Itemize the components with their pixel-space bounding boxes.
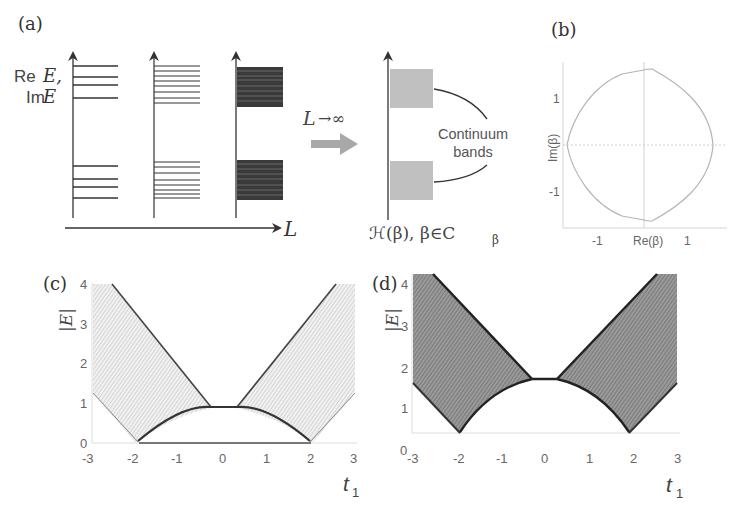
- panel-c: (c) |E| 0 1 2 3 4 -3 -2 -1 0 1 2 3: [43, 273, 359, 500]
- d-ytick-4: 4: [401, 277, 408, 292]
- panel-a: (a) Re E, Im E: [14, 13, 508, 247]
- d-left-band: [413, 274, 532, 434]
- d-ytick-1: 1: [401, 401, 408, 416]
- y-axis-label-im-e: E: [42, 86, 56, 107]
- continuum-bands-label-2: bands: [453, 144, 493, 160]
- b-ytick-neg1: -1: [549, 185, 560, 199]
- continuum-band-lower: [390, 161, 433, 200]
- d-xtick-neg2: -2: [453, 451, 465, 466]
- hamiltonian-label: ℋ(β), β∈C: [369, 223, 455, 243]
- panel-d-label: (d): [372, 273, 398, 294]
- d-xtick-1: 1: [586, 451, 593, 466]
- d-ytick-2: 2: [401, 361, 408, 376]
- d-xtick-3: 3: [674, 451, 681, 466]
- c-xlabel-sub: 1: [352, 485, 359, 500]
- c-ytick-4: 4: [80, 277, 87, 292]
- c-xtick-2: 2: [307, 451, 314, 466]
- panel-c-label: (c): [43, 273, 67, 294]
- panel-a-label: (a): [18, 13, 43, 34]
- d-ylabel: |E|: [382, 308, 402, 332]
- d-xlabel: t: [666, 473, 673, 496]
- continuum-band-upper: [390, 69, 433, 108]
- spectrum-column-1: [73, 56, 118, 218]
- d-xlabel-sub: 1: [676, 486, 683, 501]
- c-ytick-3: 3: [80, 317, 87, 332]
- d-xtick-neg1: -1: [496, 451, 508, 466]
- continuum-spectrum: Continuum bands ℋ(β), β∈C β: [369, 56, 508, 247]
- panel-b-label: (b): [551, 19, 577, 40]
- panel-d: (d) |E| 0 1 2 3 4 -3 -2 -1 0 1 2 3 t: [372, 273, 683, 501]
- y-axis-label-re: Re: [14, 67, 36, 86]
- c-xlabel: t: [343, 472, 350, 495]
- c-xtick-neg3: -3: [82, 451, 94, 466]
- c-xtick-neg2: -2: [127, 451, 139, 466]
- d-xtick-2: 2: [630, 451, 637, 466]
- b-xtick-1: 1: [684, 234, 691, 248]
- y-axis-label-re-e: E,: [42, 65, 62, 86]
- c-ytick-0: 0: [80, 436, 87, 451]
- d-xtick-0: 0: [541, 451, 548, 466]
- panel-b: (b) 1 -1 -1 1 Re(β) Im(β): [546, 19, 727, 248]
- b-ytick-1: 1: [553, 92, 560, 106]
- c-xtick-0: 0: [219, 451, 226, 466]
- c-ytick-1: 1: [80, 396, 87, 411]
- c-ytick-2: 2: [80, 356, 87, 371]
- hamiltonian-label-sub: β: [492, 233, 499, 247]
- limit-arrow-icon: [311, 133, 358, 155]
- c-xtick-1: 1: [263, 451, 270, 466]
- spectrum-column-3: [236, 56, 283, 218]
- d-ytick-3: 3: [401, 319, 408, 334]
- c-left-band: [93, 284, 211, 443]
- b-xlabel: Re(β): [633, 234, 663, 248]
- b-xtick-neg1: -1: [592, 234, 603, 248]
- limit-label-arrow: →∞: [318, 109, 345, 128]
- c-ylabel: |E|: [56, 308, 76, 332]
- figure: (a) Re E, Im E: [0, 0, 737, 510]
- spectrum-column-2: [154, 56, 200, 218]
- limit-label-l: L: [302, 107, 316, 129]
- c-xtick-neg1: -1: [171, 451, 183, 466]
- b-ylabel: Im(β): [546, 134, 560, 162]
- d-right-band: [557, 274, 677, 434]
- d-xtick-neg3: -3: [407, 451, 419, 466]
- continuum-bands-label-1: Continuum: [438, 126, 508, 142]
- c-right-band: [237, 284, 355, 443]
- l-axis-label: L: [283, 217, 297, 241]
- c-xtick-3: 3: [350, 451, 357, 466]
